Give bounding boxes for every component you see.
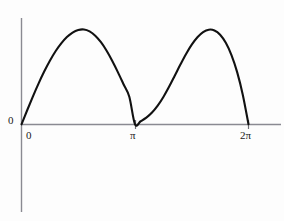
plot-background — [0, 0, 284, 221]
plot-canvas — [0, 0, 284, 221]
x-tick-label-0: 0 — [26, 130, 32, 141]
x-tick-label-2pi: 2π — [240, 130, 251, 141]
y-axis-origin-label: 0 — [8, 115, 14, 126]
x-tick-label-pi: π — [130, 130, 136, 141]
chart-screenshot: 0 0 π 2π — [0, 0, 284, 221]
